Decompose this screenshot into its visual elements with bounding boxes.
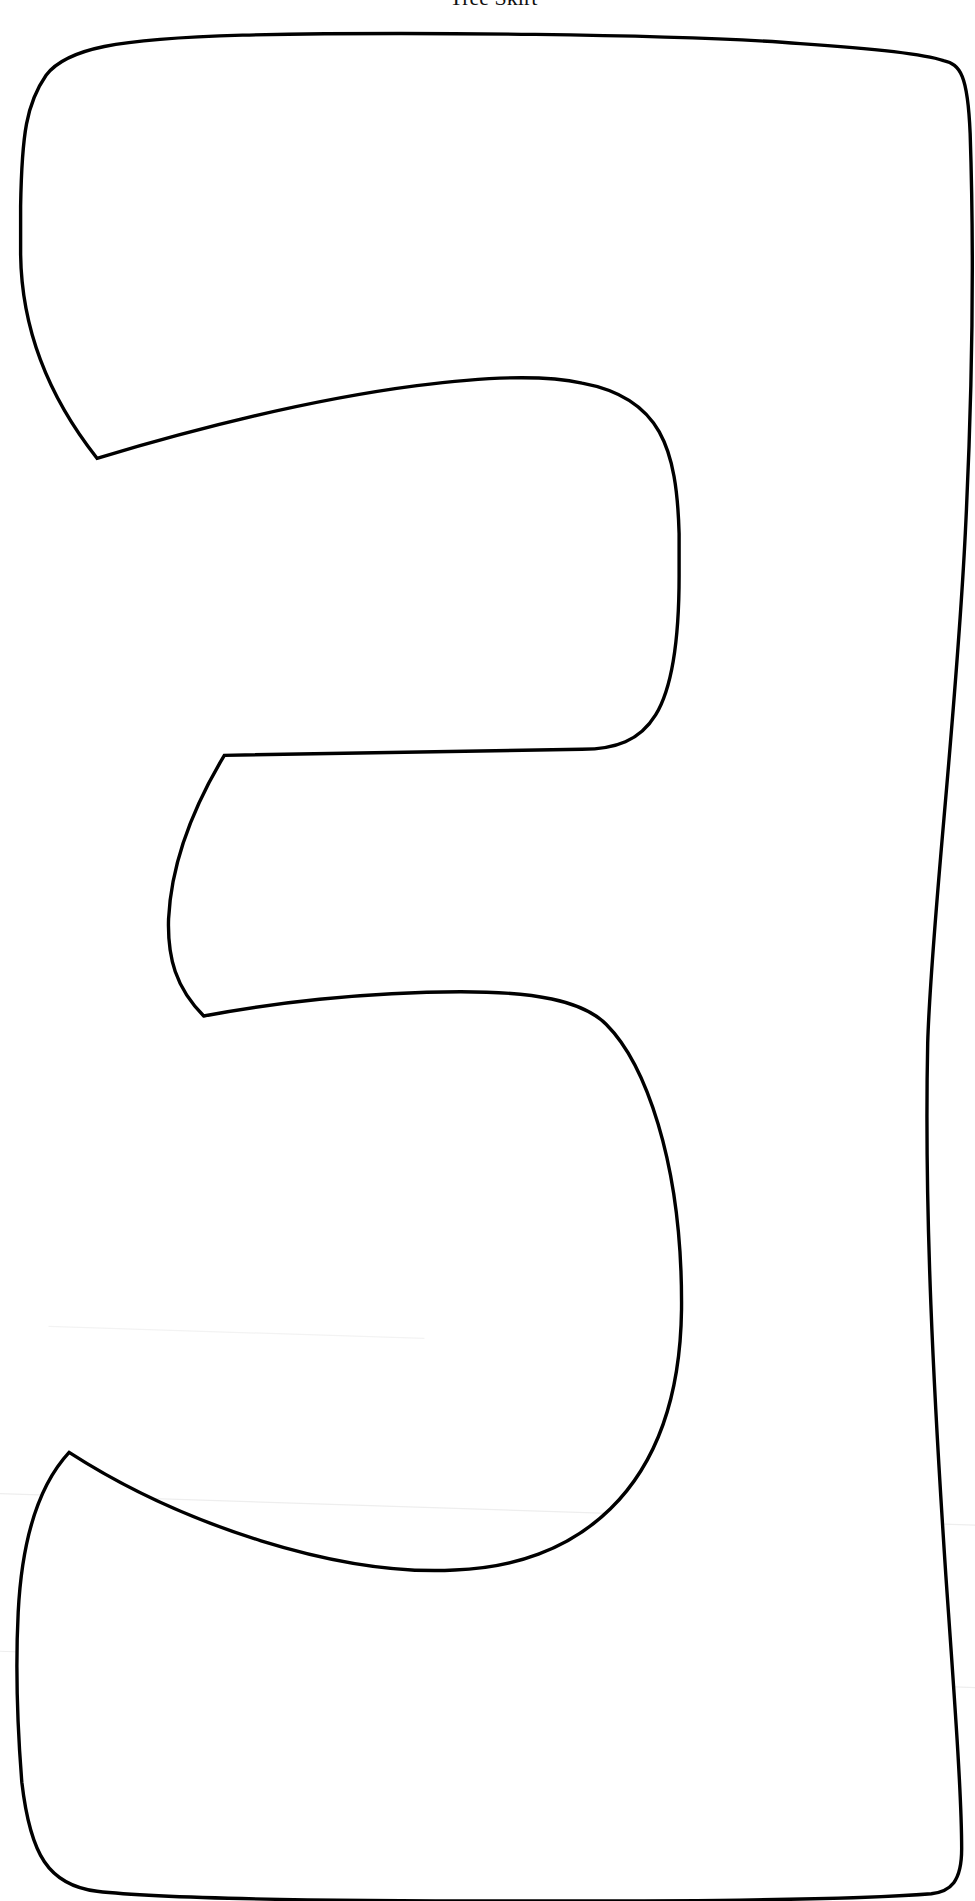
template-page: Tree Skirt [0,0,975,1901]
numeral-three-outline [0,0,975,1901]
